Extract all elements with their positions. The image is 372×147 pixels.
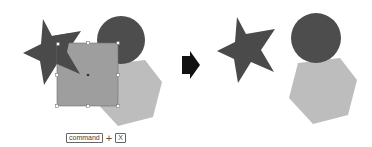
handle-top-left[interactable]: [57, 43, 60, 46]
handle-bottom-middle[interactable]: [87, 105, 90, 108]
plus-sign: +: [105, 134, 113, 143]
right-arrow-icon: [182, 51, 200, 79]
handle-bottom-right[interactable]: [117, 105, 120, 108]
keyboard-shortcut: command + X: [66, 133, 126, 143]
after-group: [217, 13, 357, 124]
circle-shape-after: [291, 13, 341, 63]
x-key: X: [115, 133, 126, 143]
handle-top-right[interactable]: [117, 42, 120, 45]
handle-middle-left[interactable]: [56, 74, 59, 77]
star-shape-after: [217, 17, 275, 83]
before-group: [23, 16, 162, 126]
command-key: command: [66, 133, 103, 143]
handle-bottom-left[interactable]: [56, 105, 59, 108]
handle-middle-right[interactable]: [117, 74, 120, 77]
diagram-canvas: [0, 0, 372, 147]
center-point: [87, 74, 90, 77]
hexagon-shape-after: [289, 58, 357, 124]
handle-top-middle[interactable]: [87, 42, 90, 45]
